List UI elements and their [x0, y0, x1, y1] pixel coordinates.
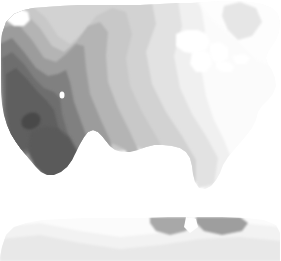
contour-map-svg-main: [0, 0, 281, 202]
contour-map-panel-main: [0, 0, 281, 202]
inland-water-cutout: [60, 92, 65, 99]
contour-band-group-secondary: [0, 217, 281, 261]
contour-map-panel-secondary: [0, 217, 281, 261]
panel-separator-gap: [0, 202, 281, 217]
contour-map-svg-secondary: [0, 217, 281, 261]
figure-root: [0, 0, 281, 261]
